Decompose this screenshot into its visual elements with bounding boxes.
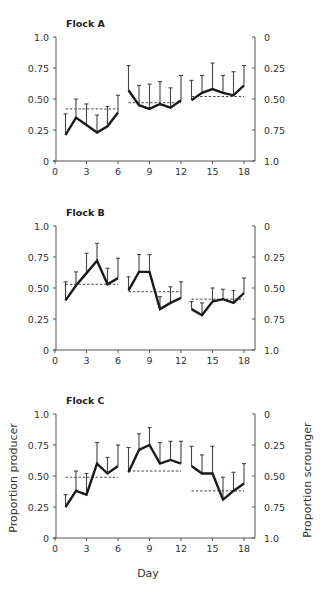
producer-proportion-line (192, 466, 245, 500)
data-segment (190, 446, 247, 499)
y-axis-title-right: Proportion scrounger (301, 422, 314, 538)
x-tick-label: 9 (146, 543, 152, 554)
x-axis-title: Day (137, 567, 159, 580)
y-tick-label-left: 0.75 (28, 63, 49, 74)
y-tick-label-right: 0.25 (264, 252, 285, 263)
y-tick-label-right: 1.0 (264, 156, 279, 167)
y-tick-label-right: 0.50 (264, 283, 285, 294)
x-tick-label: 6 (115, 355, 121, 366)
y-tick-label-right: 0.25 (264, 440, 285, 451)
y-tick-label-left: 0.25 (28, 502, 49, 513)
producer-proportion-line (129, 445, 182, 472)
x-tick-label: 6 (115, 166, 121, 177)
data-segment (127, 428, 184, 473)
y-axis-title-left: Proportion producer (7, 423, 20, 533)
producer-proportion-line (66, 261, 119, 301)
y-tick-label-right: 0 (264, 221, 270, 232)
y-tick-label-right: 1.0 (264, 533, 279, 544)
y-tick-label-right: 0 (264, 409, 270, 420)
data-segment (64, 243, 121, 300)
x-tick-label: 6 (115, 543, 121, 554)
y-tick-label-left: 0 (43, 533, 49, 544)
producer-proportion-line (129, 90, 182, 109)
y-tick-label-left: 0.50 (28, 94, 49, 105)
panel-title: Flock B (66, 207, 105, 218)
x-tick-label: 18 (238, 543, 250, 554)
x-tick-label: 12 (175, 543, 187, 554)
producer-proportion-line (192, 85, 245, 100)
x-tick-label: 15 (206, 543, 218, 554)
data-segment (64, 443, 121, 507)
y-tick-label-right: 0.50 (264, 471, 285, 482)
x-tick-label: 3 (83, 355, 89, 366)
data-segment (127, 66, 184, 109)
panel-flock-c: Flock C00.250.500.751.01.00.750.500.2500… (28, 395, 285, 554)
x-tick-label: 0 (52, 355, 58, 366)
y-tick-label-left: 0.50 (28, 283, 49, 294)
y-tick-label-left: 0.75 (28, 252, 49, 263)
y-tick-label-left: 1.0 (34, 221, 49, 232)
flock-producer-scrounger-figure: Flock A00.250.500.751.01.00.750.500.2500… (0, 0, 331, 593)
x-tick-label: 18 (238, 355, 250, 366)
panel-flock-b: Flock B00.250.500.751.01.00.750.500.2500… (28, 207, 285, 366)
x-tick-label: 3 (83, 166, 89, 177)
y-tick-label-right: 0.75 (264, 314, 285, 325)
panel-title: Flock C (66, 395, 105, 406)
y-tick-label-left: 1.0 (34, 32, 49, 43)
producer-proportion-line (129, 272, 182, 309)
y-tick-label-right: 0.50 (264, 94, 285, 105)
y-tick-label-left: 0.50 (28, 471, 49, 482)
chart-canvas: Flock A00.250.500.751.01.00.750.500.2500… (0, 0, 331, 593)
y-tick-label-left: 0 (43, 345, 49, 356)
y-tick-label-left: 0 (43, 156, 49, 167)
x-tick-label: 15 (206, 355, 218, 366)
x-tick-label: 9 (146, 166, 152, 177)
y-tick-label-left: 0.25 (28, 125, 49, 136)
y-tick-label-right: 0 (264, 32, 270, 43)
x-tick-label: 12 (175, 166, 187, 177)
data-segment (64, 95, 121, 135)
data-segment (190, 63, 247, 100)
x-tick-label: 0 (52, 543, 58, 554)
x-tick-label: 3 (83, 543, 89, 554)
data-segment (127, 255, 184, 310)
x-tick-label: 15 (206, 166, 218, 177)
x-tick-label: 9 (146, 355, 152, 366)
x-tick-label: 12 (175, 355, 187, 366)
panel-flock-a: Flock A00.250.500.751.01.00.750.500.2500… (28, 18, 285, 177)
producer-proportion-line (66, 113, 119, 135)
y-tick-label-right: 0.25 (264, 63, 285, 74)
y-tick-label-right: 1.0 (264, 345, 279, 356)
x-tick-label: 18 (238, 166, 250, 177)
x-tick-label: 0 (52, 166, 58, 177)
y-tick-label-left: 1.0 (34, 409, 49, 420)
data-segment (190, 278, 247, 315)
y-tick-label-left: 0.25 (28, 314, 49, 325)
y-tick-label-right: 0.75 (264, 502, 285, 513)
producer-proportion-line (192, 293, 245, 315)
producer-proportion-line (66, 464, 119, 507)
panel-title: Flock A (66, 18, 106, 29)
y-tick-label-left: 0.75 (28, 440, 49, 451)
y-tick-label-right: 0.75 (264, 125, 285, 136)
